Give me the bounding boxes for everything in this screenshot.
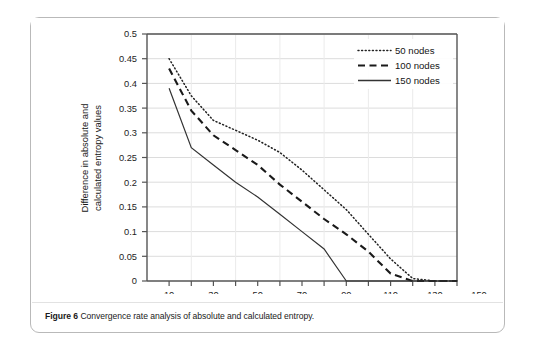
y-tick-label: 0.4 bbox=[124, 79, 137, 89]
y-tick-label: 0.25 bbox=[119, 153, 137, 163]
y-tick-label: 0.2 bbox=[124, 178, 137, 188]
y-tick-label: 0.15 bbox=[119, 202, 137, 212]
x-tick-label: 150 bbox=[471, 290, 487, 294]
figure-card: 0.5 0.45 0.4 0.35 0.3 0.25 0.2 0.15 0.1 … bbox=[30, 17, 505, 333]
caption-divider bbox=[32, 302, 503, 303]
chart-region: 0.5 0.45 0.4 0.35 0.3 0.25 0.2 0.15 0.1 … bbox=[31, 18, 504, 294]
y-tick-label: 0.5 bbox=[124, 29, 137, 39]
legend-label-50-nodes: 50 nodes bbox=[395, 45, 435, 56]
legend: 50 nodes 100 nodes 150 nodes bbox=[354, 39, 453, 89]
y-tick-label: 0.1 bbox=[124, 227, 137, 237]
figure-caption-text: Convergence rate analysis of absolute an… bbox=[80, 311, 314, 321]
x-tick-label: 130 bbox=[427, 290, 443, 294]
y-tick-label: 0.35 bbox=[119, 104, 137, 114]
figure-caption-label: Figure 6 bbox=[45, 311, 78, 321]
y-tick-label: 0.45 bbox=[119, 54, 137, 64]
figure-caption: Figure 6 Convergence rate analysis of ab… bbox=[45, 310, 493, 322]
y-axis-title-line1: Difference in absolute and bbox=[79, 104, 90, 213]
legend-label-100-nodes: 100 nodes bbox=[395, 60, 440, 71]
x-tick-label: 10 bbox=[164, 290, 174, 294]
x-tick-label: 90 bbox=[341, 290, 351, 294]
legend-label-150-nodes: 150 nodes bbox=[395, 75, 440, 86]
y-tick-label: 0.3 bbox=[124, 128, 137, 138]
x-tick-label: 70 bbox=[297, 290, 307, 294]
y-axis-title-line2: calculated entropy values bbox=[92, 105, 103, 211]
y-tick-label: 0 bbox=[132, 276, 137, 286]
x-tick-label: 50 bbox=[253, 290, 263, 294]
x-tick-label: 30 bbox=[208, 290, 218, 294]
convergence-line-chart: 0.5 0.45 0.4 0.35 0.3 0.25 0.2 0.15 0.1 … bbox=[31, 18, 504, 294]
x-tick-label: 110 bbox=[383, 290, 398, 294]
y-tick-label: 0.05 bbox=[119, 252, 137, 262]
